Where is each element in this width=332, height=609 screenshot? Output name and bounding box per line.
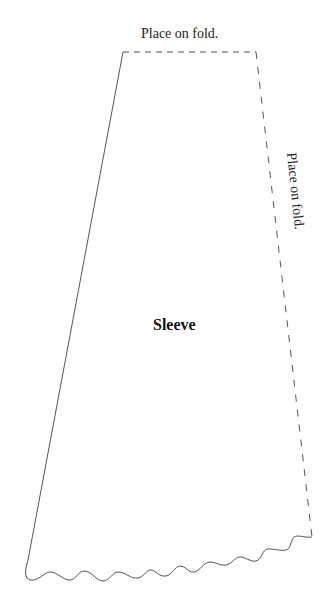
wavy-hem-line [30,536,312,581]
right-fold-line [256,52,312,537]
sleeve-pattern-outline [0,0,332,609]
left-cut-edge [25,52,123,580]
pattern-piece-name: Sleeve [153,316,196,334]
top-fold-label: Place on fold. [141,26,218,42]
